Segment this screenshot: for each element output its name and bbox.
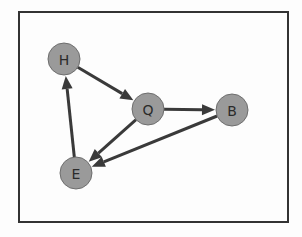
graph-edge-H-Q <box>78 67 122 93</box>
arrow-head-Q-B <box>202 104 215 115</box>
graph-node-Q[interactable]: Q <box>132 93 164 125</box>
node-circle-H[interactable] <box>48 43 80 75</box>
graph-node-H[interactable]: H <box>48 43 80 75</box>
graph-edge-Q-E <box>98 120 136 153</box>
graph-figure-canvas: HQBE <box>0 0 302 237</box>
graph-svg: HQBE <box>0 0 302 237</box>
graph-edge-E-H <box>67 89 74 157</box>
graph-edge-B-E <box>104 116 217 162</box>
node-circle-Q[interactable] <box>132 93 164 125</box>
graph-node-B[interactable]: B <box>216 94 248 126</box>
node-circle-B[interactable] <box>216 94 248 126</box>
node-circle-E[interactable] <box>60 157 92 189</box>
graph-node-E[interactable]: E <box>60 157 92 189</box>
node-layer: HQBE <box>48 43 248 189</box>
arrow-head-E-H <box>62 76 73 90</box>
